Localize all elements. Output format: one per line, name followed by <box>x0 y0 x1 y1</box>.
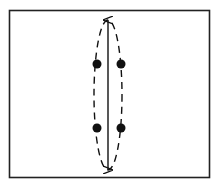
diagram-canvas <box>0 0 220 185</box>
diagram-frame <box>10 11 210 178</box>
point-1 <box>93 60 102 69</box>
point-3 <box>93 124 102 133</box>
point-2 <box>117 60 126 69</box>
point-4 <box>117 124 126 133</box>
